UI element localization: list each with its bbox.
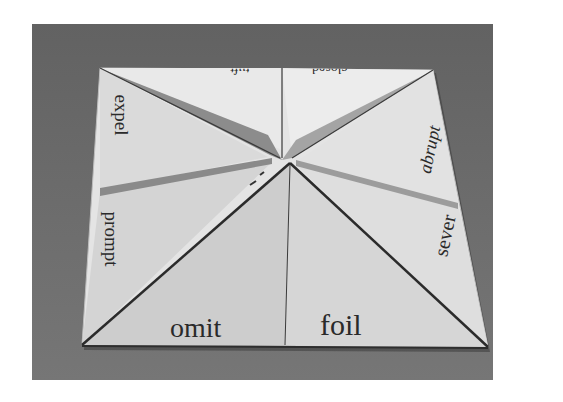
- word-bottom-left: omit: [170, 312, 221, 344]
- word-bottom-right: foil: [320, 308, 362, 342]
- word-left-upper: expel: [110, 94, 132, 135]
- photo: tuft closed expel prompt abrupt sever om…: [32, 24, 493, 380]
- fortune-teller-illustration: [32, 24, 493, 380]
- word-left-lower: prompt: [100, 212, 122, 267]
